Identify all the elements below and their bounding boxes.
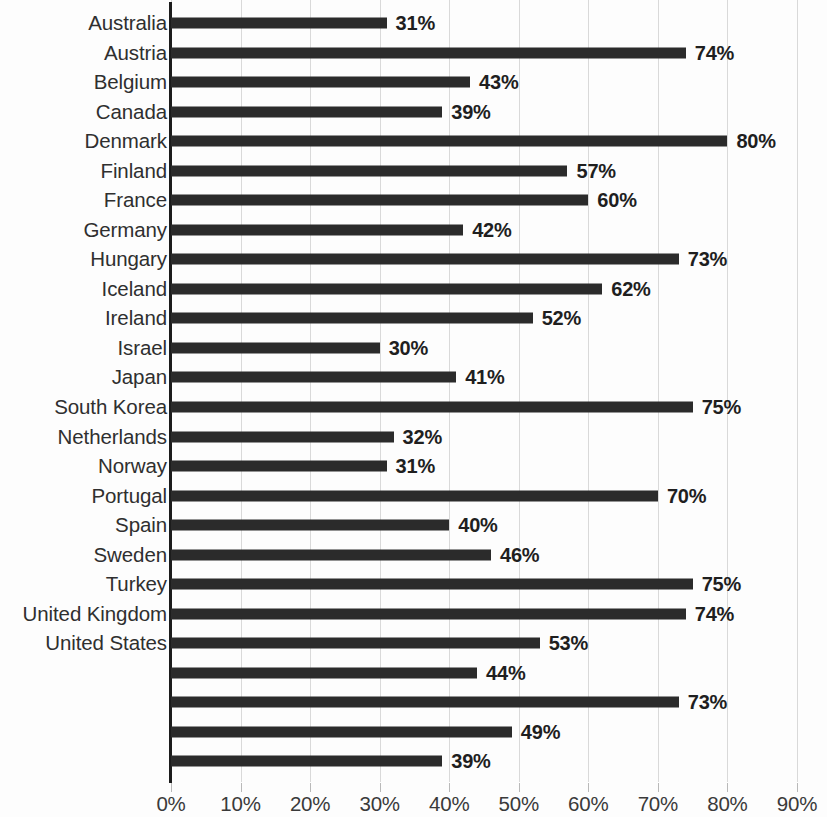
bar-value-label: 42%	[472, 218, 511, 241]
x-tick-label: 40%	[429, 792, 469, 816]
category-label: Sweden	[94, 543, 167, 567]
bar-value-label: 39%	[451, 750, 490, 773]
bar-row: Portugal70%	[0, 481, 827, 511]
bar-value-label: 41%	[465, 366, 504, 389]
x-tick-mark	[727, 783, 728, 792]
bar-value-label: 74%	[695, 602, 734, 625]
x-tick-mark	[241, 783, 242, 792]
x-tick-label: 0%	[156, 792, 185, 816]
bar-row: Germany42%	[0, 215, 827, 245]
bar-value-label: 73%	[688, 248, 727, 271]
bar-row: United States53%	[0, 628, 827, 658]
category-label: Belgium	[94, 70, 167, 94]
category-label: Norway	[98, 454, 167, 478]
bar	[171, 77, 470, 88]
category-label: Turkey	[106, 572, 167, 596]
x-tick-mark	[310, 783, 311, 792]
bar-value-label: 52%	[542, 307, 581, 330]
bar-row: Spain40%	[0, 510, 827, 540]
bar-row: 39%	[0, 746, 827, 776]
category-label: Ireland	[105, 306, 167, 330]
bar-row: Netherlands32%	[0, 422, 827, 452]
bar	[171, 726, 512, 737]
x-tick-label: 90%	[777, 792, 817, 816]
bar-row: Japan41%	[0, 363, 827, 393]
bar-row: Australia31%	[0, 9, 827, 39]
bar-value-label: 30%	[389, 336, 428, 359]
category-label: Finland	[100, 159, 167, 183]
bar-row: Denmark80%	[0, 127, 827, 157]
bar	[171, 697, 679, 708]
bar	[171, 224, 463, 235]
bar	[171, 461, 387, 472]
x-tick-label: 20%	[290, 792, 330, 816]
x-tick-mark	[380, 783, 381, 792]
bar-value-label: 74%	[695, 41, 734, 64]
x-tick-label: 10%	[220, 792, 260, 816]
bar-row: Canada39%	[0, 97, 827, 127]
x-tick-mark	[658, 783, 659, 792]
bar-value-label: 39%	[451, 100, 490, 123]
bar-row: 73%	[0, 687, 827, 717]
bar	[171, 313, 533, 324]
bar	[171, 372, 456, 383]
category-label: Hungary	[90, 247, 167, 271]
bar	[171, 608, 686, 619]
bar-row: Ireland52%	[0, 304, 827, 334]
category-label: South Korea	[54, 395, 167, 419]
bar-row: United Kingdom74%	[0, 599, 827, 629]
bar	[171, 667, 477, 678]
x-tick-mark	[171, 783, 172, 792]
bar	[171, 520, 449, 531]
bar	[171, 579, 693, 590]
category-label: United States	[45, 631, 167, 655]
bar	[171, 549, 491, 560]
bar	[171, 283, 602, 294]
category-label: Canada	[96, 100, 167, 124]
bar	[171, 165, 567, 176]
bar-value-label: 32%	[403, 425, 442, 448]
bar-row: South Korea75%	[0, 392, 827, 422]
category-label: Germany	[83, 218, 167, 242]
bar-value-label: 53%	[549, 632, 588, 655]
x-tick-mark	[449, 783, 450, 792]
bar-row: 44%	[0, 658, 827, 688]
category-label: France	[104, 188, 167, 212]
bar-value-label: 46%	[500, 543, 539, 566]
bar	[171, 47, 686, 58]
bar-value-label: 40%	[458, 514, 497, 537]
x-tick-label: 80%	[707, 792, 747, 816]
bar-row: Turkey75%	[0, 569, 827, 599]
bar	[171, 638, 540, 649]
x-tick-label: 60%	[568, 792, 608, 816]
x-tick-mark	[588, 783, 589, 792]
bar	[171, 18, 387, 29]
bar	[171, 254, 679, 265]
category-label: Spain	[115, 513, 167, 537]
category-label: United Kingdom	[23, 602, 167, 626]
category-label: Netherlands	[58, 425, 167, 449]
bar	[171, 342, 380, 353]
bar	[171, 490, 658, 501]
bar	[171, 431, 394, 442]
bar-value-label: 49%	[521, 720, 560, 743]
bar-row: Israel30%	[0, 333, 827, 363]
bar-value-label: 80%	[736, 130, 775, 153]
bar-row: 49%	[0, 717, 827, 747]
bar-value-label: 31%	[396, 455, 435, 478]
bar	[171, 106, 442, 117]
bar-value-label: 75%	[702, 396, 741, 419]
bar-row: Austria74%	[0, 38, 827, 68]
x-tick-mark	[797, 783, 798, 792]
bar-row: France60%	[0, 186, 827, 216]
bar-row: Sweden46%	[0, 540, 827, 570]
bar-value-label: 62%	[611, 277, 650, 300]
x-tick-label: 30%	[359, 792, 399, 816]
bar	[171, 402, 693, 413]
bar-value-label: 60%	[597, 189, 636, 212]
bar	[171, 195, 588, 206]
bar-chart: Australia31%Austria74%Belgium43%Canada39…	[0, 0, 827, 817]
bar-row: Iceland62%	[0, 274, 827, 304]
bar-row: Norway31%	[0, 451, 827, 481]
category-label: Austria	[104, 41, 167, 65]
